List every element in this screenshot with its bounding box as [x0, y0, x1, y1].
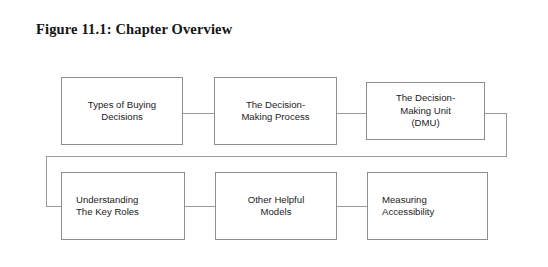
connector-n2-n3 [337, 113, 366, 114]
flow-node-the-decision-making-process[interactable]: The Decision- Making Process [214, 77, 337, 145]
flow-node-line: Understanding [76, 194, 138, 206]
flow-node-other-helpful-models[interactable]: Other Helpful Models [215, 172, 337, 240]
flow-node-line: Types of Buying [88, 99, 156, 111]
flow-node-line: Decisions [101, 111, 143, 123]
flow-node-line: (DMU) [411, 117, 439, 129]
connector-wrap-down [506, 113, 507, 156]
connector-n1-n2 [183, 113, 214, 114]
flow-node-line: Accessibility [382, 206, 434, 218]
figure-title: Figure 11.1: Chapter Overview [36, 21, 232, 38]
flow-node-line: Making Process [241, 111, 309, 123]
flow-node-line: Other Helpful [248, 194, 305, 206]
connector-n4-n5 [185, 206, 215, 207]
flow-node-types-of-buying-decisions[interactable]: Types of Buying Decisions [61, 77, 183, 145]
flow-node-line: The Key Roles [76, 206, 139, 218]
figure-container: Figure 11.1: Chapter Overview Types of B… [0, 0, 548, 267]
flow-node-line: The Decision- [246, 99, 305, 111]
flow-node-understanding-the-key-roles[interactable]: Understanding The Key Roles [61, 172, 185, 240]
flow-node-measuring-accessibility[interactable]: Measuring Accessibility [367, 172, 488, 240]
connector-n3-wrap-right [485, 113, 507, 114]
flow-node-line: Making Unit [400, 105, 451, 117]
flow-node-the-decision-making-unit-dmu[interactable]: The Decision- Making Unit (DMU) [366, 82, 485, 140]
connector-wrap-left-down [46, 156, 47, 206]
flow-node-line: Models [261, 206, 292, 218]
connector-wrap-into-n4 [46, 206, 62, 207]
connector-n5-n6 [337, 206, 367, 207]
connector-wrap-across [46, 156, 507, 157]
flow-node-line: Measuring [382, 194, 427, 206]
flow-node-line: The Decision- [396, 92, 455, 104]
